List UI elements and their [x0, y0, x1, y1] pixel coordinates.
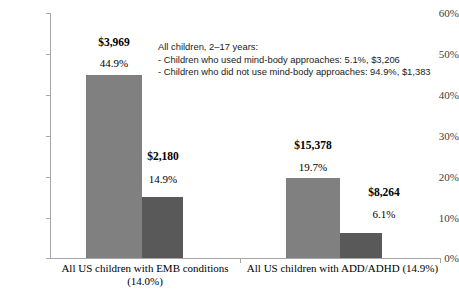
y-tick-mark-0: [46, 258, 51, 259]
bar-adhd-not-used: [340, 233, 382, 258]
category-label-emb-line1: All US children with EMB conditions: [55, 262, 235, 275]
bar-emb-not-used-dollar-label: $2,180: [132, 150, 194, 162]
category-label-emb-line2: (14.0%): [55, 275, 235, 288]
x-tick-end: [440, 258, 441, 263]
y-tick-mark-60: [46, 13, 51, 14]
category-label-adhd: All US children with ADD/ADHD (14.9%): [245, 262, 440, 275]
bar-adhd-not-used-percent-label: 6.1%: [350, 208, 418, 220]
annotation-line-1: All children, 2–17 years:: [158, 41, 454, 54]
bar-chart: 60% 50% 40% 30% 20% 10% 0% $3,969 44.9% …: [0, 0, 459, 303]
x-axis-line: [50, 258, 440, 259]
bar-emb-used-percent-label: 44.9%: [74, 57, 154, 69]
y-tick-mark-10: [46, 218, 51, 219]
y-axis-label-60: 60%: [419, 8, 459, 19]
bar-adhd-not-used-dollar-label: $8,264: [350, 186, 418, 198]
y-tick-mark-30: [46, 136, 51, 137]
y-tick-mark-20: [46, 177, 51, 178]
clipped-footer-caption: [60, 291, 400, 302]
bar-emb-not-used-percent-label: 14.9%: [132, 173, 194, 185]
bar-emb-used-dollar-label: $3,969: [74, 36, 154, 48]
y-axis-label-10: 10%: [419, 213, 459, 224]
annotation-line-3: - Children who did not use mind-body app…: [158, 66, 454, 79]
y-tick-mark-50: [46, 54, 51, 55]
bar-adhd-used-dollar-label: $15,378: [271, 139, 355, 151]
bar-emb-used: [86, 75, 142, 258]
annotation-textbox: All children, 2–17 years: - Children who…: [158, 41, 454, 79]
bar-adhd-used: [286, 178, 340, 258]
category-label-emb: All US children with EMB conditions (14.…: [55, 262, 235, 288]
x-tick-separator: [240, 258, 241, 263]
category-label-adhd-line1: All US children with ADD/ADHD (14.9%): [245, 262, 440, 275]
y-axis-label-20: 20%: [419, 172, 459, 183]
annotation-line-2: - Children who used mind-body approaches…: [158, 54, 454, 67]
y-tick-mark-40: [46, 95, 51, 96]
bar-adhd-used-percent-label: 19.7%: [271, 161, 355, 173]
y-axis-label-40: 40%: [419, 90, 459, 101]
y-axis-label-30: 30%: [419, 131, 459, 142]
bar-emb-not-used: [142, 197, 183, 258]
